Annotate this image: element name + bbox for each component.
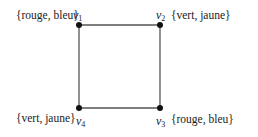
vertex-v4 — [76, 105, 82, 111]
vertex-v1-label: {rouge, bleu} — [16, 10, 79, 22]
vertex-v2-name: v2 — [156, 9, 165, 23]
vertex-v3 — [157, 105, 163, 111]
vertex-v4-name: v4 — [76, 115, 85, 129]
vertex-v3-label: {rouge, bleu} — [171, 114, 234, 126]
vertex-v3-name: v3 — [156, 115, 165, 129]
vertex-v4-label: {vert, jaune} — [16, 113, 76, 125]
vertex-v2-label: {vert, jaune} — [171, 10, 231, 22]
vertex-v1-name: v1 — [73, 9, 82, 23]
